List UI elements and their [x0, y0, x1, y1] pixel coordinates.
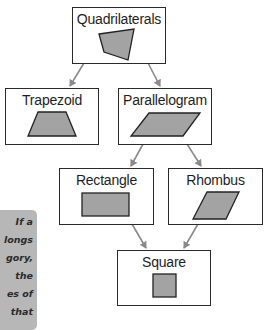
square-icon [118, 251, 212, 307]
note-line: es of [7, 288, 33, 299]
node-square: Square [117, 250, 211, 306]
rhombus-icon [169, 169, 264, 226]
node-rectangle: Rectangle [59, 168, 154, 225]
arrow-parallelogram-to-rhombus [187, 144, 201, 166]
note-line: that [11, 306, 33, 317]
note-line: If a [16, 216, 33, 227]
rectangle-icon [60, 169, 155, 226]
arrow-quadrilaterals-to-parallelogram [148, 63, 160, 86]
irregular-quadrilateral-icon [73, 8, 167, 65]
arrow-quadrilaterals-to-trapezoid [70, 63, 84, 86]
note-line: longs [4, 234, 33, 245]
note-line: the [15, 270, 33, 281]
node-rhombus: Rhombus [168, 168, 263, 225]
arrow-rhombus-to-square [184, 224, 198, 248]
arrow-rectangle-to-square [132, 224, 146, 248]
node-quadrilaterals: Quadrilaterals [72, 7, 166, 64]
trapezoid-icon [6, 89, 100, 146]
note-callout: If a longs gory, the es of that [0, 210, 37, 330]
node-trapezoid: Trapezoid [5, 88, 99, 145]
parallelogram-icon [119, 89, 213, 146]
arrow-parallelogram-to-rectangle [131, 144, 143, 166]
note-line: gory, [6, 252, 33, 263]
node-parallelogram: Parallelogram [118, 88, 212, 145]
